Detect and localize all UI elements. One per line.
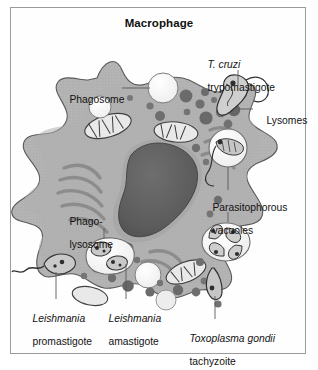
lysosome (184, 109, 191, 116)
lysosome (134, 257, 140, 263)
lysosome (81, 273, 87, 279)
label-leishmania-amastigote: Leishmania amastigote (97, 301, 161, 359)
lysosome (224, 120, 233, 129)
lysosome (127, 95, 133, 101)
lysosome (192, 288, 201, 297)
promastigote-kinetoplast (53, 264, 56, 267)
lysosome (145, 287, 154, 296)
label-toxoplasma-gondii-tachyzoite: Toxoplasma gondii tachyzoite (178, 321, 275, 370)
lysosome (192, 144, 200, 152)
lysosome (173, 285, 183, 295)
lysosome (146, 102, 153, 109)
lysosome (157, 280, 163, 286)
label-parasitophorous-vacuoles: Parasitophorous vacuoles (201, 190, 287, 248)
lysosome (196, 258, 204, 266)
macrophage-figure: Macrophage (0, 0, 318, 370)
label-t-cruzi-trypomastigote: T. cruzi trypomastigote (196, 47, 275, 105)
label-leishmania-promastigote: Leishmania promastigote (21, 301, 92, 359)
lysosome (203, 159, 209, 165)
lysosome (214, 300, 221, 307)
tachyzoite-nucleus (210, 286, 215, 291)
lysosome (199, 111, 212, 124)
lysosome (155, 111, 165, 121)
label-phagosome: Phagosome (58, 82, 124, 117)
lysosome (122, 280, 134, 292)
label-phago-lysosome: Phago- lysosome (58, 204, 113, 262)
label-lysomes: Lysomes (255, 103, 307, 138)
phagosome-vacuole (148, 73, 178, 103)
lysosome (108, 274, 116, 282)
lysosome (180, 90, 193, 103)
amastigote-kinetoplast (218, 140, 223, 145)
